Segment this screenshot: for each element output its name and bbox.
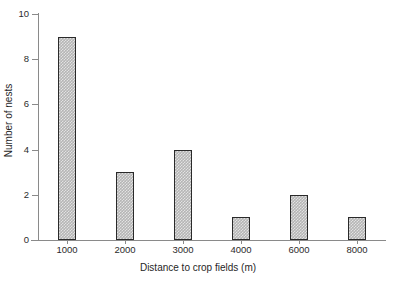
bar [290,195,308,240]
bar [348,217,366,240]
x-axis-tick-label: 8000 [346,245,367,255]
y-axis-tick-label: 6 [24,100,29,110]
y-axis-tick [32,14,38,15]
chart-figure: Number of nests 0246810 Distance to crop… [0,0,396,281]
y-axis-tick-label: 4 [24,145,29,155]
bar [174,150,192,240]
y-axis-tick-label: 10 [18,9,29,19]
y-axis-tick [32,240,38,241]
bar [116,172,134,240]
x-axis-tick-label: 2000 [114,245,135,255]
x-axis-title: Distance to crop fields (m) [0,262,396,273]
x-axis-tick-label: 1000 [56,245,77,255]
y-axis-title-label: Number of nests [4,83,15,156]
y-axis-tick [32,104,38,105]
bar [58,37,76,240]
y-axis-tick [32,195,38,196]
x-axis-line [31,240,386,241]
y-axis-tick-label: 2 [24,190,29,200]
y-axis-tick-label: 0 [24,235,29,245]
plot-area: 0246810 [38,14,386,240]
y-axis-tick [32,150,38,151]
x-axis-tick-label: 3000 [172,245,193,255]
x-axis-tick-label: 4000 [230,245,251,255]
y-axis-tick-label: 8 [24,54,29,64]
y-axis-title: Number of nests [2,0,16,240]
bar [232,217,250,240]
y-axis-tick [32,59,38,60]
x-axis-title-label: Distance to crop fields (m) [140,262,256,273]
x-axis-tick-label: 6000 [288,245,309,255]
